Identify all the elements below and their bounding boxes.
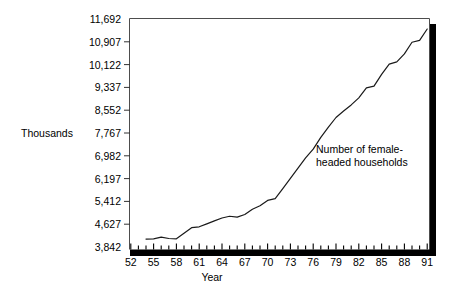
x-tick-label: 55 [148, 256, 160, 268]
x-tick-label: 70 [262, 256, 274, 268]
x-tick-label: 91 [421, 256, 433, 268]
x-tick-label: 61 [193, 256, 205, 268]
series-annotation-line-1: Number of female- [316, 143, 408, 156]
x-axis-title-wrap: Year [0, 271, 450, 283]
data-series-line [146, 29, 427, 239]
x-tick-label: 52 [125, 256, 137, 268]
x-tick-label: 85 [376, 256, 388, 268]
x-tick-label: 88 [399, 256, 411, 268]
x-tick-label: 58 [171, 256, 183, 268]
x-tick-marks [131, 244, 427, 250]
x-axis-tick-labels: 52 55 58 61 64 67 70 73 76 79 82 85 88 9… [0, 256, 450, 272]
x-axis-title: Year [201, 271, 222, 283]
x-tick-label: 67 [239, 256, 251, 268]
x-tick-label: 73 [285, 256, 297, 268]
series-annotation: Number of female- headed households [316, 143, 408, 169]
x-tick-label: 76 [307, 256, 319, 268]
series-annotation-line-2: headed households [316, 156, 408, 169]
x-tick-label: 64 [216, 256, 228, 268]
chart-figure: 11,692 10,907 10,122 9,337 8,552 7,767 6… [0, 0, 450, 294]
plot-frame [130, 19, 430, 250]
x-tick-label: 82 [353, 256, 365, 268]
right-axis-bar [429, 24, 436, 256]
x-tick-label: 79 [330, 256, 342, 268]
